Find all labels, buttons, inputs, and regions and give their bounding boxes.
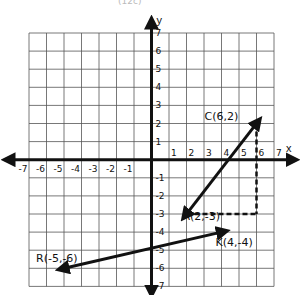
- svg-text:5: 5: [156, 64, 162, 74]
- svg-text:-5: -5: [54, 164, 63, 174]
- svg-text:3: 3: [206, 148, 212, 158]
- svg-text:4: 4: [224, 148, 230, 158]
- svg-text:1: 1: [156, 137, 162, 147]
- point-label-R: R(-5,-6): [36, 252, 78, 265]
- svg-text:4: 4: [156, 82, 162, 92]
- svg-text:-1: -1: [124, 164, 133, 174]
- svg-text:-4: -4: [156, 227, 165, 237]
- y-axis-label: y: [157, 14, 163, 26]
- svg-text:7: 7: [276, 148, 282, 158]
- coordinate-plane: xy -7-6-5-4-3-2-112345677654321-1-2-3-4-…: [0, 0, 300, 295]
- point-label-A: A(2,-3): [183, 210, 221, 223]
- svg-text:-3: -3: [156, 209, 165, 219]
- svg-text:6: 6: [156, 46, 162, 56]
- svg-text:2: 2: [189, 148, 195, 158]
- svg-text:-6: -6: [36, 164, 45, 174]
- svg-text:1: 1: [171, 148, 177, 158]
- svg-text:-3: -3: [89, 164, 98, 174]
- svg-text:-2: -2: [156, 191, 165, 201]
- svg-text:-7: -7: [19, 164, 28, 174]
- svg-text:-6: -6: [156, 263, 165, 273]
- svg-text:7: 7: [156, 28, 162, 38]
- svg-text:-2: -2: [106, 164, 115, 174]
- svg-text:3: 3: [156, 100, 162, 110]
- point-label-C: C(6,2): [205, 110, 239, 123]
- svg-text:-1: -1: [156, 173, 165, 183]
- svg-text:6: 6: [259, 148, 265, 158]
- svg-text:2: 2: [156, 119, 162, 129]
- point-label-K: K(4,-4): [216, 236, 253, 249]
- svg-text:5: 5: [241, 148, 247, 158]
- x-axis-label: x: [286, 142, 292, 154]
- svg-text:-4: -4: [71, 164, 80, 174]
- svg-text:-7: -7: [156, 281, 165, 291]
- point-labels: C(6,2)A(2,-3)K(4,-4)R(-5,-6): [36, 110, 253, 266]
